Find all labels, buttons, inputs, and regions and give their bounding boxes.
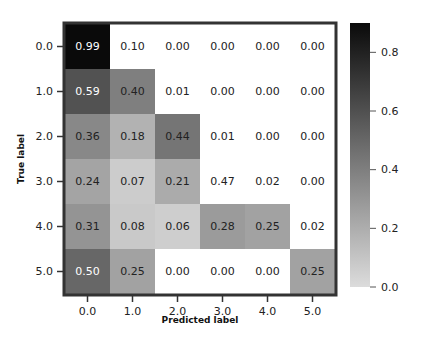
cell-value-label: 0.00 — [210, 40, 235, 53]
colorbar-tick-label: 0.0 — [381, 281, 399, 294]
cell-value-label: 0.02 — [300, 220, 325, 233]
cell-value-label: 0.00 — [300, 40, 325, 53]
y-tick-label: 1.0 — [36, 85, 54, 98]
cell-value-label: 0.25 — [255, 220, 280, 233]
cell-value-label: 0.02 — [255, 175, 280, 188]
cell-value-label: 0.00 — [255, 40, 280, 53]
y-axis-ticks: 0.01.02.03.04.05.0 — [36, 40, 65, 278]
cell-value-label: 0.08 — [120, 220, 145, 233]
cell-value-label: 0.99 — [75, 40, 100, 53]
x-tick-label: 1.0 — [124, 305, 142, 318]
colorbar-tick-label: 0.2 — [381, 222, 399, 235]
cell-value-label: 0.18 — [120, 130, 145, 143]
y-tick-label: 0.0 — [36, 40, 54, 53]
cell-value-label: 0.10 — [120, 40, 145, 53]
cell-value-label: 0.40 — [120, 85, 145, 98]
y-axis-label: True label — [16, 134, 26, 184]
x-tick-label: 0.0 — [79, 305, 97, 318]
cell-value-label: 0.00 — [300, 130, 325, 143]
y-tick-label: 5.0 — [36, 265, 54, 278]
colorbar-tick-label: 0.8 — [381, 46, 399, 59]
cell-value-label: 0.00 — [255, 130, 280, 143]
cell-value-label: 0.50 — [75, 265, 100, 278]
x-tick-label: 4.0 — [259, 305, 277, 318]
cell-value-label: 0.00 — [300, 175, 325, 188]
colorbar-ticks: 0.00.20.40.60.8 — [370, 46, 399, 294]
cell-value-label: 0.00 — [210, 85, 235, 98]
colorbar-tick-label: 0.4 — [381, 163, 399, 176]
cell-value-label: 0.25 — [300, 265, 325, 278]
x-axis-label: Predicted label — [162, 315, 239, 325]
cell-value-label: 0.01 — [165, 85, 190, 98]
cell-value-label: 0.00 — [165, 40, 190, 53]
cell-value-label: 0.47 — [210, 175, 235, 188]
cell-value-label: 0.00 — [255, 265, 280, 278]
cell-value-label: 0.00 — [300, 85, 325, 98]
x-tick-label: 5.0 — [304, 305, 322, 318]
y-tick-label: 2.0 — [36, 130, 54, 143]
cell-value-label: 0.36 — [75, 130, 100, 143]
cell-value-label: 0.07 — [120, 175, 145, 188]
y-tick-label: 3.0 — [36, 175, 54, 188]
cell-value-label: 0.24 — [75, 175, 100, 188]
heatmap-cells — [65, 24, 335, 294]
colorbar — [350, 23, 370, 287]
cell-value-label: 0.00 — [210, 265, 235, 278]
cell-value-label: 0.06 — [165, 220, 190, 233]
cell-value-label: 0.31 — [75, 220, 100, 233]
cell-value-label: 0.59 — [75, 85, 100, 98]
cell-value-label: 0.44 — [165, 130, 190, 143]
cell-value-label: 0.25 — [120, 265, 145, 278]
confusion-matrix-chart: 0.990.100.000.000.000.000.590.400.010.00… — [0, 0, 423, 339]
colorbar-tick-label: 0.6 — [381, 105, 399, 118]
y-tick-label: 4.0 — [36, 220, 54, 233]
cell-value-label: 0.00 — [255, 85, 280, 98]
cell-value-label: 0.21 — [165, 175, 190, 188]
cell-value-label: 0.28 — [210, 220, 235, 233]
cell-value-label: 0.01 — [210, 130, 235, 143]
cell-value-label: 0.00 — [165, 265, 190, 278]
